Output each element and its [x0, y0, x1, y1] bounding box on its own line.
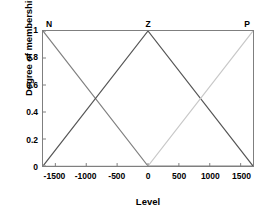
y-tick-label: 1 — [33, 25, 38, 35]
series-lines — [43, 31, 253, 166]
series-label-p: P — [244, 19, 250, 29]
plot-area — [42, 30, 254, 167]
x-tick-label: 0 — [146, 171, 151, 181]
series-line-p — [43, 31, 253, 166]
series-label-n: N — [46, 19, 52, 29]
x-tick-label: 1000 — [201, 171, 220, 181]
x-tick-label: 1500 — [232, 171, 251, 181]
series-label-z: Z — [145, 19, 150, 29]
fuzzy-membership-chart: Degree of membership Level 00.20.40.60.8… — [0, 0, 272, 217]
y-tick-label: 0.2 — [26, 135, 38, 145]
x-tick-label: 500 — [172, 171, 186, 181]
y-tick-label: 0.8 — [26, 52, 38, 62]
series-line-z — [43, 31, 253, 166]
series-line-n — [43, 31, 253, 166]
y-tick-label: 0.6 — [26, 80, 38, 90]
y-tick-label: 0 — [33, 162, 38, 172]
x-tick-label: -500 — [108, 171, 125, 181]
x-axis-title: Level — [42, 196, 254, 207]
x-tick-label: -1500 — [44, 171, 66, 181]
y-tick-label: 0.4 — [26, 107, 38, 117]
x-tick-label: -1000 — [75, 171, 97, 181]
